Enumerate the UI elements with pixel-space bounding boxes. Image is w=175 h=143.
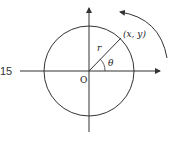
radius-label: r <box>97 43 102 53</box>
angle-label: θ <box>108 58 114 68</box>
unit-circle-diagram: 15 O r (x, y) θ <box>0 0 175 143</box>
left-label: 15 <box>0 65 12 77</box>
angle-arc <box>100 59 105 71</box>
origin-label: O <box>80 75 87 85</box>
point-label: (x, y) <box>123 29 146 39</box>
radius-line <box>89 38 121 71</box>
